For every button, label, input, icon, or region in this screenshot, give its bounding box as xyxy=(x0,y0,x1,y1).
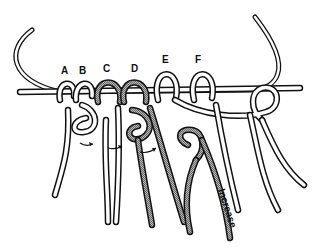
label-d: D xyxy=(131,63,138,74)
label-a: A xyxy=(61,65,68,76)
hanging-cords-shaded xyxy=(129,108,230,238)
label-e: E xyxy=(162,54,169,65)
label-b: B xyxy=(79,65,86,76)
holding-ring xyxy=(16,17,279,92)
label-f: F xyxy=(195,54,201,65)
knotting-diagram: A B C D E F Increase xyxy=(0,0,321,247)
label-c: C xyxy=(103,63,110,74)
